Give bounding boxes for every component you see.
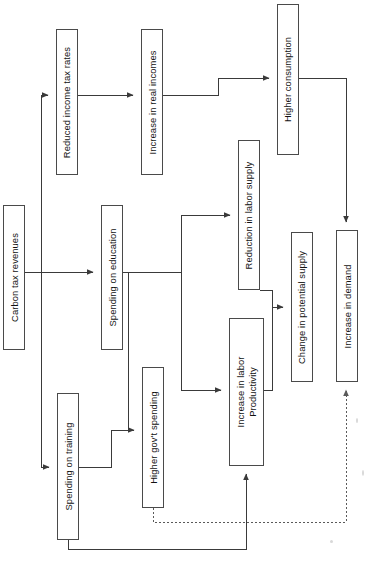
node-higher-consumption[interactable]: Higher consumption bbox=[277, 4, 299, 155]
node-label: Spending on training bbox=[63, 422, 74, 510]
node-increase-in-demand[interactable]: Increase in demand bbox=[336, 230, 358, 382]
edge-carbon-to-income-tax bbox=[25, 95, 48, 272]
node-spending-on-training[interactable]: Spending on training bbox=[57, 393, 79, 540]
node-increase-in-labor-productivity[interactable]: Increase in labor Productivity bbox=[229, 318, 264, 466]
node-carbon-tax-revenues[interactable]: Carbon tax revenues bbox=[3, 205, 25, 350]
node-label: Increase in labor Productivity bbox=[235, 356, 259, 427]
node-label: Change in potential supply bbox=[297, 250, 308, 363]
edge-education-to-labor-productivity bbox=[181, 272, 221, 390]
node-change-in-potential-supply[interactable]: Change in potential supply bbox=[291, 232, 313, 382]
edge-productivity-to-potential-supply bbox=[264, 307, 272, 390]
node-label: Higher gov't spending bbox=[148, 391, 159, 484]
edge-real-incomes-to-consumption bbox=[163, 78, 269, 95]
node-label: Spending on education bbox=[107, 228, 118, 326]
edge-education-to-reduction-labor-supply bbox=[123, 215, 230, 272]
edge-education-to-govt-spending bbox=[128, 272, 134, 430]
edge-consumption-to-demand bbox=[299, 78, 346, 222]
node-reduced-income-tax-rates[interactable]: Reduced income tax rates bbox=[56, 29, 78, 175]
node-higher-govt-spending[interactable]: Higher gov't spending bbox=[142, 367, 164, 508]
edge-training-to-govt-spending bbox=[79, 430, 134, 467]
edge-reduction-to-potential-supply bbox=[260, 290, 283, 307]
node-label: Carbon tax revenues bbox=[9, 233, 20, 322]
node-label: Increase in demand bbox=[342, 264, 353, 348]
node-label: Higher consumption bbox=[283, 37, 294, 122]
node-spending-on-education[interactable]: Spending on education bbox=[101, 205, 123, 350]
flowchart-canvas: Carbon tax revenues Reduced income tax r… bbox=[0, 0, 370, 563]
node-label: Reduced income tax rates bbox=[62, 46, 73, 157]
edge-carbon-to-training bbox=[41, 272, 49, 467]
node-label: Increase in real incomes bbox=[147, 50, 158, 154]
node-reduction-in-labor-supply[interactable]: Reduction in labor supply bbox=[238, 140, 260, 290]
node-label: Reduction in labor supply bbox=[244, 161, 255, 269]
node-increase-in-real-incomes[interactable]: Increase in real incomes bbox=[141, 29, 163, 175]
